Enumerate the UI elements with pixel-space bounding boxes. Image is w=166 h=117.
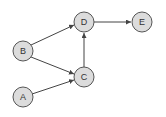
node-c: C	[74, 67, 94, 87]
node-a: A	[13, 87, 33, 107]
node-a-label: A	[20, 92, 26, 102]
graph-canvas: A B C D E	[0, 0, 166, 117]
node-e-label: E	[139, 17, 145, 27]
edge-b-d	[31, 25, 74, 45]
node-d-label: D	[81, 17, 88, 27]
edge-a-c	[32, 80, 74, 94]
node-d: D	[74, 12, 94, 32]
node-c-label: C	[81, 72, 88, 82]
edge-b-c	[31, 57, 74, 74]
node-b-label: B	[20, 46, 26, 56]
node-b: B	[13, 41, 33, 61]
node-e: E	[132, 12, 152, 32]
